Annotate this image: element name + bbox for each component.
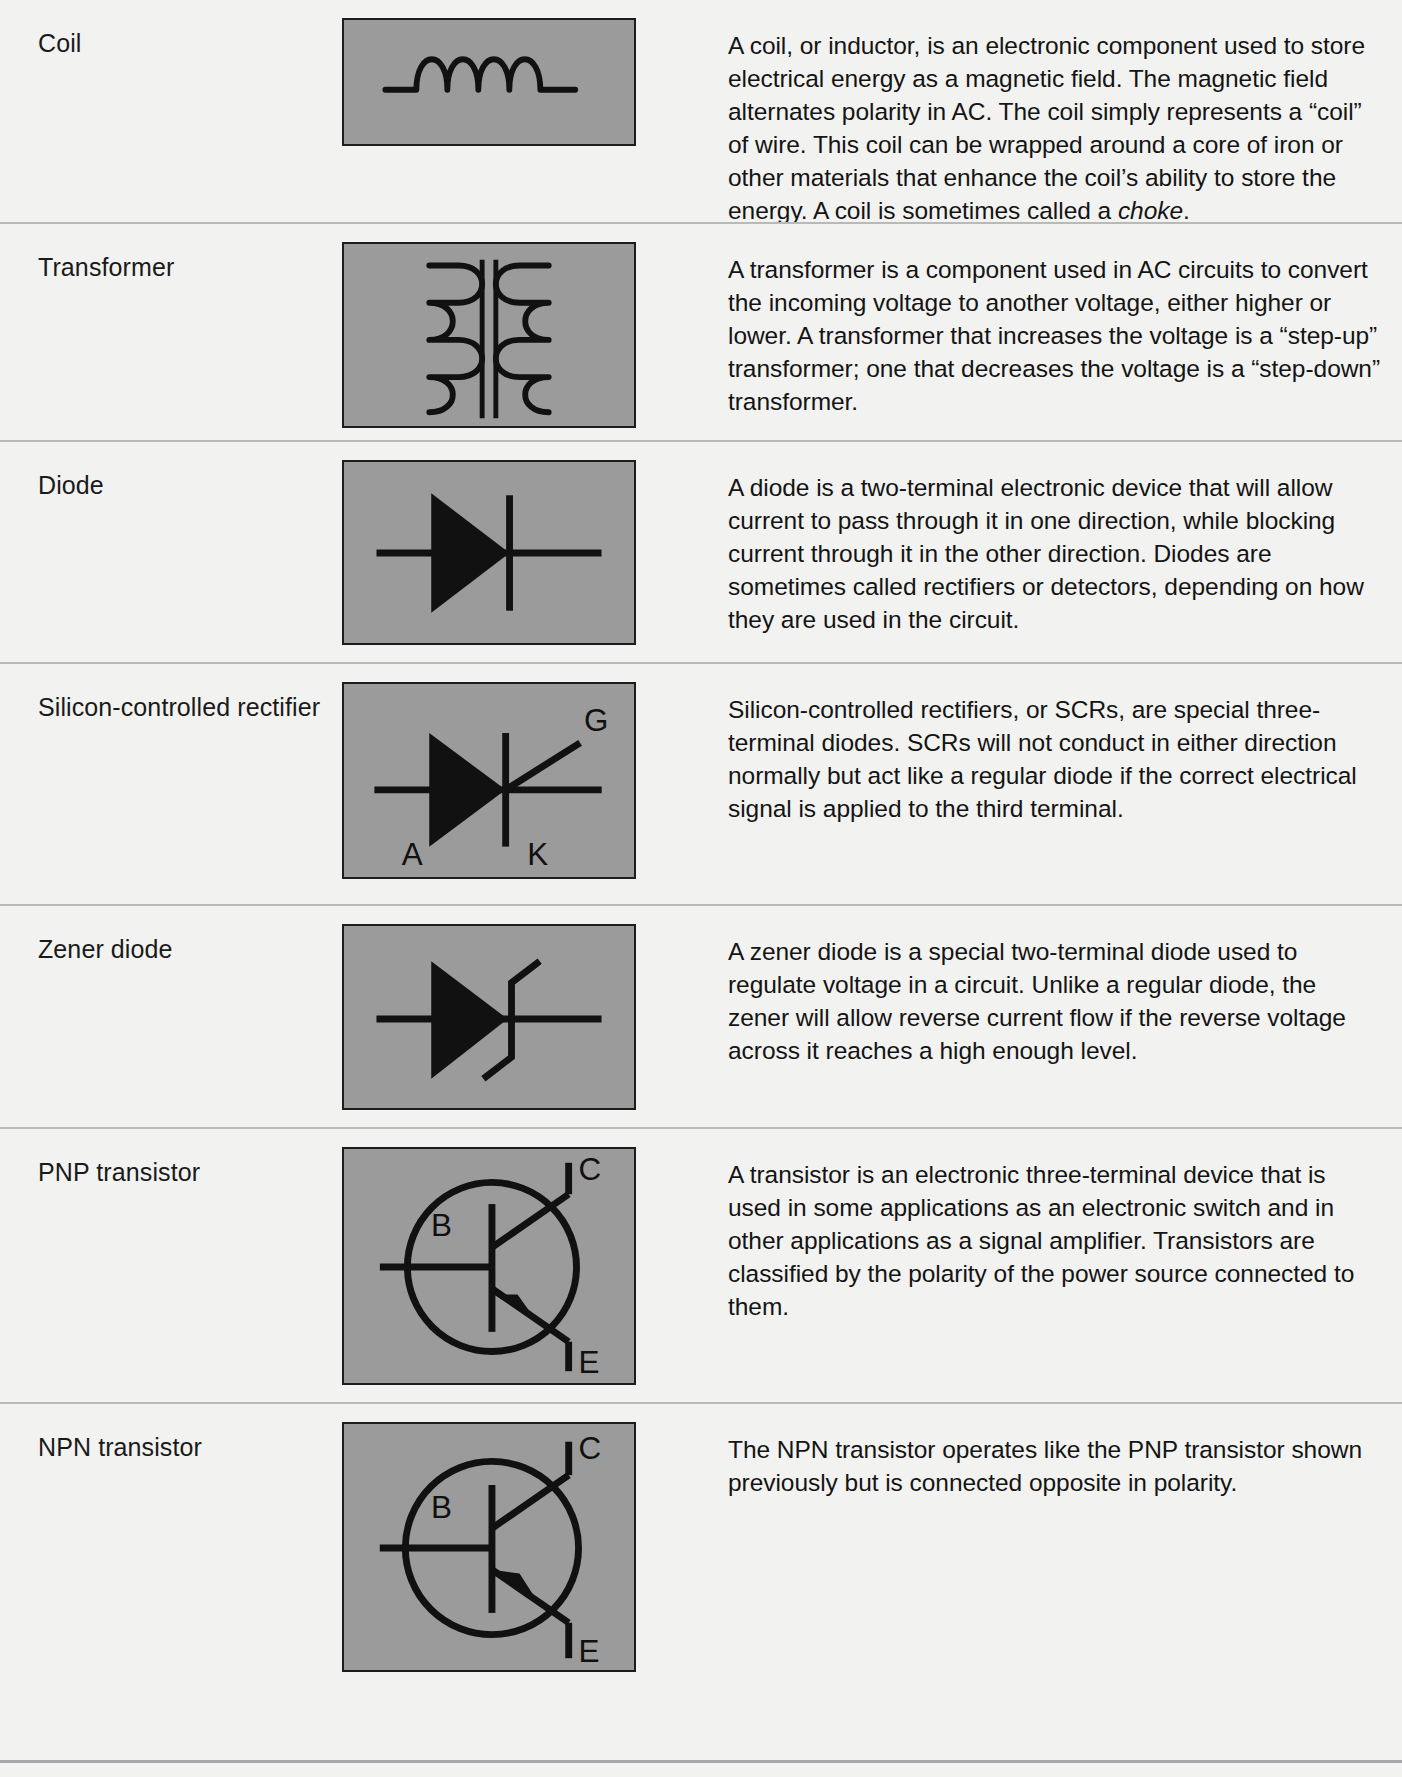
table-row: Coil A coil, or inductor, is an electron… bbox=[0, 0, 1402, 222]
scr-anode-label: A bbox=[402, 837, 423, 872]
component-symbol-cell bbox=[342, 906, 715, 1128]
component-description-cell: Silicon-controlled rectifiers, or SCRs, … bbox=[715, 664, 1402, 826]
component-name-cell: Diode bbox=[0, 442, 342, 501]
scr-gate-label: G bbox=[584, 703, 608, 738]
pnp-collector-label: C bbox=[578, 1152, 601, 1187]
component-symbol-cell: G A K bbox=[342, 664, 715, 897]
component-symbol-cell: B C E bbox=[342, 1404, 715, 1690]
table-row: Transformer A transformer is a component… bbox=[0, 222, 1402, 440]
component-description: A coil, or inductor, is an electronic co… bbox=[728, 30, 1382, 228]
component-description: A diode is a two-terminal electronic dev… bbox=[728, 472, 1382, 637]
component-symbol-cell bbox=[342, 442, 715, 663]
table-row: Zener diode A zener diode is a special t… bbox=[0, 904, 1402, 1127]
component-name: PNP transistor bbox=[38, 1157, 330, 1188]
npn-emitter-label: E bbox=[579, 1634, 600, 1669]
diode-symbol bbox=[342, 460, 636, 645]
component-name-cell: NPN transistor bbox=[0, 1404, 342, 1463]
component-symbol-table: Coil A coil, or inductor, is an electron… bbox=[0, 0, 1402, 1691]
component-name-cell: Silicon-controlled rectifier bbox=[0, 664, 342, 723]
table-row: PNP transistor B C E bbox=[0, 1127, 1402, 1402]
zener-diode-symbol bbox=[342, 924, 636, 1110]
table-row: NPN transistor B C E bbox=[0, 1402, 1402, 1691]
table-row: Silicon-controlled rectifier G A K S bbox=[0, 662, 1402, 904]
component-description: A zener diode is a special two-terminal … bbox=[728, 936, 1382, 1068]
component-name: Coil bbox=[38, 28, 330, 59]
component-description-cell: A transistor is an electronic three-term… bbox=[715, 1129, 1402, 1324]
component-symbol-cell: B C E bbox=[342, 1129, 715, 1403]
component-description-cell: A zener diode is a special two-terminal … bbox=[715, 906, 1402, 1068]
component-name-cell: Zener diode bbox=[0, 906, 342, 965]
scr-cathode-label: K bbox=[527, 837, 548, 872]
table-bottom-rule bbox=[0, 1760, 1402, 1763]
component-name: Transformer bbox=[38, 252, 330, 283]
component-description-cell: A transformer is a component used in AC … bbox=[715, 224, 1402, 419]
npn-transistor-symbol: B C E bbox=[342, 1422, 636, 1672]
pnp-transistor-symbol: B C E bbox=[342, 1147, 636, 1385]
coil-inductor-symbol bbox=[342, 18, 636, 146]
component-description: Silicon-controlled rectifiers, or SCRs, … bbox=[728, 694, 1382, 826]
component-description-cell: A coil, or inductor, is an electronic co… bbox=[715, 0, 1402, 228]
component-name-cell: PNP transistor bbox=[0, 1129, 342, 1188]
transformer-symbol bbox=[342, 242, 636, 428]
component-description: A transformer is a component used in AC … bbox=[728, 254, 1382, 419]
component-name-cell: Coil bbox=[0, 0, 342, 59]
component-name: Silicon-controlled rectifier bbox=[38, 692, 330, 723]
component-description-cell: A diode is a two-terminal electronic dev… bbox=[715, 442, 1402, 637]
component-name: Zener diode bbox=[38, 934, 330, 965]
document-page: Coil A coil, or inductor, is an electron… bbox=[0, 0, 1402, 1777]
pnp-emitter-label: E bbox=[578, 1345, 599, 1380]
scr-symbol: G A K bbox=[342, 682, 636, 879]
component-description: The NPN transistor operates like the PNP… bbox=[728, 1434, 1382, 1500]
component-name: Diode bbox=[38, 470, 330, 501]
npn-collector-label: C bbox=[579, 1431, 602, 1466]
table-row: Diode A diode is a two-terminal electron… bbox=[0, 440, 1402, 662]
npn-base-label: B bbox=[431, 1490, 452, 1525]
component-symbol-cell bbox=[342, 224, 715, 446]
component-description: A transistor is an electronic three-term… bbox=[728, 1159, 1382, 1324]
pnp-base-label: B bbox=[431, 1208, 452, 1243]
component-symbol-cell bbox=[342, 0, 715, 164]
component-name: NPN transistor bbox=[38, 1432, 330, 1463]
component-name-cell: Transformer bbox=[0, 224, 342, 283]
component-description-cell: The NPN transistor operates like the PNP… bbox=[715, 1404, 1402, 1500]
